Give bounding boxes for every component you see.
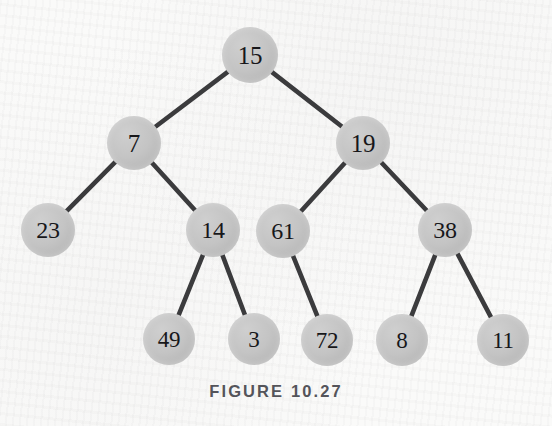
tree-node-label: 23 [36, 218, 60, 242]
tree-edge-14-to-3 [221, 252, 245, 317]
tree-node-7: 7 [107, 116, 161, 170]
tree-node-label: 11 [492, 328, 514, 351]
tree-edge-38-to-11 [456, 251, 492, 319]
tree-edge-15-to-19 [270, 70, 344, 128]
tree-edge-19-to-38 [379, 160, 428, 212]
tree-node-label: 72 [316, 328, 339, 351]
tree-node-38: 38 [418, 203, 472, 257]
tree-node-label: 61 [271, 219, 295, 243]
tree-node-11: 11 [477, 314, 529, 366]
tree-node-3: 3 [228, 313, 280, 365]
tree-node-label: 14 [201, 218, 225, 242]
tree-node-label: 3 [248, 327, 259, 350]
tree-node-label: 7 [128, 130, 140, 155]
tree-node-61: 61 [256, 204, 310, 258]
tree-node-label: 15 [238, 42, 263, 67]
tree-edge-19-to-61 [299, 161, 347, 213]
tree-edge-7-to-23 [65, 160, 117, 213]
tree-node-8: 8 [376, 314, 428, 366]
tree-node-14: 14 [186, 203, 240, 257]
tree-node-72: 72 [301, 314, 353, 366]
tree-node-49: 49 [143, 313, 195, 365]
tree-node-label: 19 [351, 130, 376, 155]
tree-edge-7-to-14 [150, 161, 197, 212]
figure-caption: FIGURE 10.27 [0, 382, 552, 401]
tree-edge-14-to-49 [178, 252, 204, 317]
tree-node-15: 15 [222, 27, 278, 83]
tree-edge-61-to-72 [292, 253, 318, 318]
tree-edge-38-to-8 [410, 252, 436, 318]
binary-tree-figure: 157192314613849372811 [0, 0, 552, 426]
tree-node-label: 8 [396, 328, 407, 351]
tree-node-23: 23 [21, 203, 75, 257]
tree-node-label: 49 [158, 327, 181, 350]
tree-node-19: 19 [336, 116, 390, 170]
tree-edge-15-to-7 [153, 70, 230, 128]
tree-node-label: 38 [433, 218, 457, 242]
